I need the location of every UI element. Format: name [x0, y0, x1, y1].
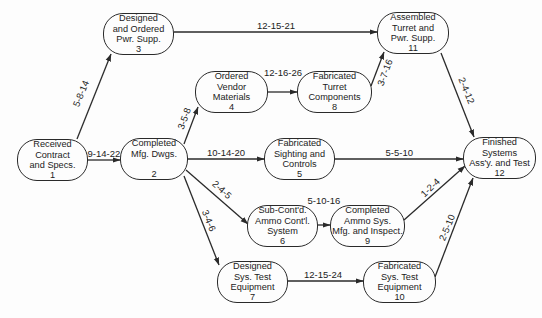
node-label-line: Mfg. and Inspect.: [332, 226, 402, 236]
node-label-line: Sys. Test: [234, 272, 271, 282]
node-label-line: Completed: [345, 205, 389, 215]
node-number: 1: [50, 170, 55, 180]
node-label-line: Received: [33, 139, 71, 149]
node-label-line: Ammo Sys.: [344, 216, 391, 226]
edge-label-5-12: 5-5-10: [386, 147, 413, 158]
node-12: FinishedSystemsAss'y. and Test12: [463, 137, 536, 179]
node-label-line: and Ordered: [113, 24, 165, 34]
node-label-line: Ass'y. and Test: [469, 158, 530, 168]
node-label-line: Sighting and: [274, 149, 325, 159]
node-number: 3: [136, 44, 141, 54]
node-3: Designedand OrderedPwr. Supp.3: [103, 13, 174, 55]
node-label-line: [153, 159, 156, 169]
node-label-line: and Specs.: [30, 160, 76, 170]
node-label-line: Vendor: [217, 82, 246, 92]
edge-label-4-8: 12-16-26: [264, 67, 302, 78]
node-label-line: Mfg. Dwgs.: [131, 149, 177, 159]
node-4: OrderedVendorMaterials4: [195, 71, 268, 113]
node-number: 8: [332, 102, 337, 112]
node-7: DesignedSys. TestEquipment7: [217, 261, 288, 303]
node-label-line: Designed: [119, 13, 158, 23]
node-11: AssembledTurret andPwr. Supp.11: [377, 12, 449, 54]
node-8: FabricatedTurretComponents8: [297, 71, 372, 113]
node-label-line: Fabricated: [278, 138, 321, 148]
node-9: CompletedAmmo Sys.Mfg. and Inspect.9: [330, 205, 405, 247]
node-10: FabricatedSys. TestEquipment10: [363, 261, 436, 303]
node-number: 2: [151, 169, 156, 179]
node-2: CompletedMfg. Dwgs. 2: [120, 138, 188, 180]
node-label-line: Pwr. Supp.: [116, 34, 160, 44]
node-label-line: Sub-Cont'd.: [258, 205, 306, 215]
node-label-line: Controls: [282, 159, 316, 169]
edge-label-2-5: 10-14-20: [207, 147, 245, 158]
node-label-line: Fabricated: [313, 71, 356, 81]
edge-9-to-12: [404, 166, 465, 220]
node-number: 10: [394, 292, 404, 302]
node-label-line: Turret: [322, 82, 346, 92]
node-label-line: Finished: [482, 137, 517, 147]
node-label-line: Completed: [132, 138, 176, 148]
node-label-line: Equipment: [378, 282, 422, 292]
edge-label-7-10: 12-15-24: [304, 269, 342, 280]
node-number: 4: [229, 102, 234, 112]
node-number: 7: [250, 292, 255, 302]
node-label-line: Equipment: [231, 282, 275, 292]
node-label-line: Components: [308, 92, 360, 102]
node-label-line: Ordered: [215, 71, 249, 81]
node-label-line: System: [267, 226, 298, 236]
node-6: Sub-Cont'd.Ammo Cont'l.System6: [247, 205, 318, 247]
edge-label-6-9: 5-10-16: [308, 195, 341, 206]
node-5: FabricatedSighting andControls5: [264, 138, 335, 180]
node-number: 11: [408, 43, 418, 53]
edge-label-3-11: 12-15-21: [257, 20, 295, 31]
node-1: ReceivedContractand Specs.1: [17, 139, 88, 181]
node-number: 6: [280, 236, 285, 246]
node-label-line: Fabricated: [378, 261, 421, 271]
node-label-line: Materials: [213, 92, 250, 102]
node-label-line: Ammo Cont'l.: [255, 216, 310, 226]
node-label-line: Designed: [233, 261, 272, 271]
node-number: 5: [297, 169, 302, 179]
node-label-line: Turret and: [392, 23, 434, 33]
node-label-line: Assembled: [390, 12, 435, 22]
node-label-line: Pwr. Supp.: [391, 33, 435, 43]
edge-label-1-2: 9-14-22: [88, 148, 121, 159]
node-label-line: Contract: [35, 150, 70, 160]
node-label-line: Systems: [482, 148, 517, 158]
node-label-line: Sys. Test: [381, 272, 418, 282]
node-number: 9: [365, 236, 370, 246]
node-number: 12: [494, 168, 504, 178]
